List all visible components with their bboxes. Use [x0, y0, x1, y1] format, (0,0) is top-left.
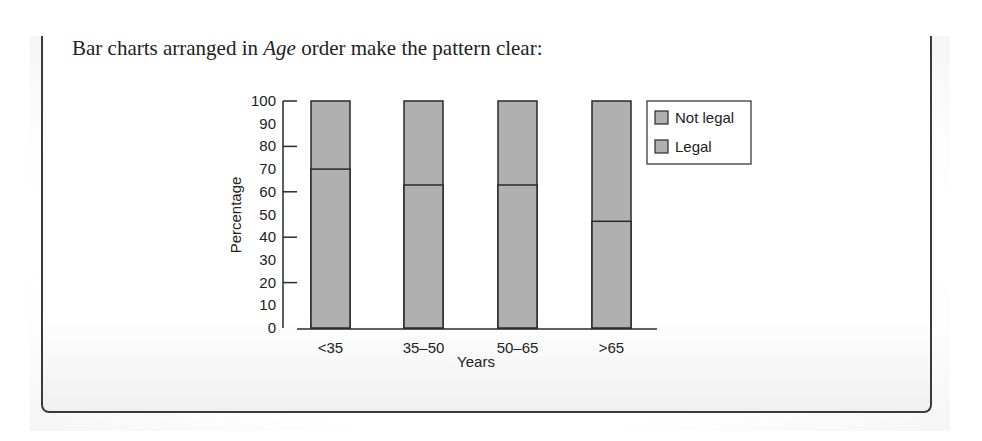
y-tick-label: 70 — [259, 160, 276, 177]
x-tick-label: >65 — [599, 339, 624, 356]
x-axis: <3535–5050–65>65 — [297, 329, 657, 356]
y-tick-label: 60 — [259, 183, 276, 200]
bar-segment-legal — [404, 185, 443, 328]
x-axis-label: Years — [457, 353, 495, 370]
x-tick-label: <35 — [318, 339, 343, 356]
y-axis-label: Percentage — [227, 177, 244, 254]
y-tick-label: 30 — [259, 251, 276, 268]
y-tick-label: 50 — [259, 206, 276, 223]
legend-swatch — [655, 111, 668, 124]
y-tick-label: 10 — [259, 296, 276, 313]
bar-segment-legal — [498, 185, 537, 328]
y-tick-label: 0 — [268, 319, 276, 336]
bars — [311, 101, 631, 328]
y-tick-label: 100 — [251, 92, 276, 109]
legend-swatch — [655, 140, 668, 153]
y-tick-label: 80 — [259, 137, 276, 154]
legend-label: Legal — [675, 138, 712, 155]
y-tick-label: 90 — [259, 115, 276, 132]
legend-label: Not legal — [675, 109, 734, 126]
y-axis: 0102030405060708090100 — [251, 92, 297, 336]
bar-1 — [404, 101, 443, 328]
legend: Not legalLegal — [647, 101, 751, 164]
y-tick-label: 40 — [259, 228, 276, 245]
x-tick-label: 50–65 — [497, 339, 539, 356]
y-tick-label: 20 — [259, 274, 276, 291]
bar-0 — [311, 101, 350, 328]
bar-segment-legal — [592, 221, 631, 328]
stacked-bar-chart: 0102030405060708090100 <3535–5050–65>65 … — [0, 0, 982, 441]
bar-2 — [498, 101, 537, 328]
x-tick-label: 35–50 — [403, 339, 445, 356]
bar-3 — [592, 101, 631, 328]
bar-segment-legal — [311, 169, 350, 328]
